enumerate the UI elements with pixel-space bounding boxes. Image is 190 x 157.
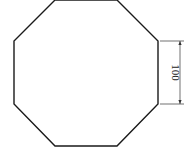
dimension-annotation: 100 bbox=[160, 41, 184, 104]
arrowhead-top-icon bbox=[178, 41, 181, 45]
octagon-shape bbox=[14, 0, 158, 146]
dimension-label: 100 bbox=[170, 64, 182, 81]
arrowhead-bottom-icon bbox=[178, 100, 181, 104]
octagon-diagram: 100 bbox=[0, 0, 190, 157]
